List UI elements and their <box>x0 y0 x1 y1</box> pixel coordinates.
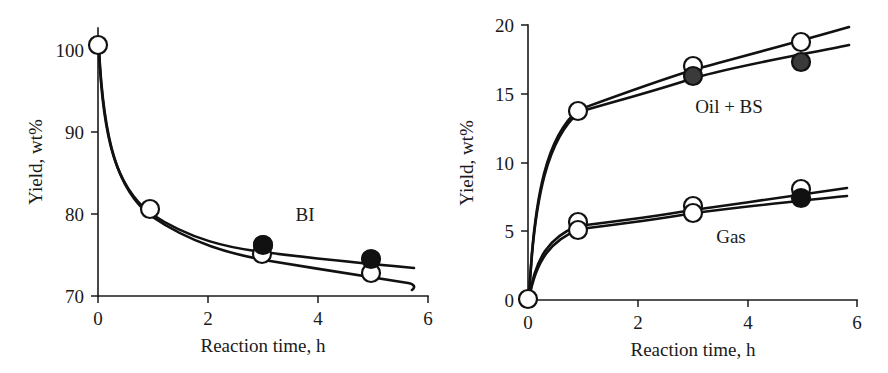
left-y-axis-title: Yield, wt% <box>25 119 46 205</box>
left-point-open-t09 <box>141 200 159 218</box>
left-y-label-100: 100 <box>56 40 85 61</box>
left-point-open-t0 <box>89 36 107 54</box>
right-x-label-4: 4 <box>743 312 753 333</box>
right-y-label-0: 0 <box>505 290 515 311</box>
right-x-axis-title: Reaction time, h <box>630 339 756 360</box>
left-point-filled-t5 <box>362 250 380 268</box>
figure-two-panel-yield-plots: 70 80 90 100 0 2 4 6 Reaction time, h Yi… <box>0 0 888 373</box>
left-x-label-6: 6 <box>423 308 433 329</box>
right-point-oilbs-filled-t3 <box>684 67 702 85</box>
right-series-label-oil-bs: Oil + BS <box>695 96 763 117</box>
left-chart-panel: 70 80 90 100 0 2 4 6 Reaction time, h Yi… <box>0 0 444 373</box>
left-x-label-4: 4 <box>313 308 323 329</box>
left-x-label-0: 0 <box>93 308 103 329</box>
right-point-origin <box>519 290 537 308</box>
right-point-gas-open-t3b <box>684 204 702 222</box>
left-curve-filled-series <box>99 50 414 268</box>
left-y-label-90: 90 <box>65 122 84 143</box>
right-x-label-6: 6 <box>852 312 862 333</box>
left-x-axis-title: Reaction time, h <box>200 335 326 356</box>
left-y-label-80: 80 <box>65 204 84 225</box>
right-x-label-2: 2 <box>633 312 643 333</box>
right-y-label-20: 20 <box>495 15 514 36</box>
right-point-gas-filled-t5 <box>792 189 810 207</box>
right-point-gas-open-t09b <box>569 221 587 239</box>
right-y-label-10: 10 <box>495 153 514 174</box>
right-series-label-gas: Gas <box>716 226 746 247</box>
right-x-label-0: 0 <box>523 312 533 333</box>
left-x-label-2: 2 <box>203 308 213 329</box>
left-y-label-70: 70 <box>65 286 84 307</box>
right-y-label-5: 5 <box>505 221 515 242</box>
right-point-oilbs-filled-t5 <box>792 53 810 71</box>
right-point-oilbs-open-t5 <box>792 33 810 51</box>
right-chart-panel: 0 5 10 15 20 0 2 4 6 Reaction time, h Yi… <box>444 0 888 373</box>
left-series-label-bi: BI <box>296 204 315 225</box>
left-point-filled-t3-top <box>254 236 272 254</box>
right-y-axis-title: Yield, wt% <box>456 120 477 206</box>
right-point-oilbs-open-t09 <box>569 102 587 120</box>
right-y-label-15: 15 <box>495 84 514 105</box>
